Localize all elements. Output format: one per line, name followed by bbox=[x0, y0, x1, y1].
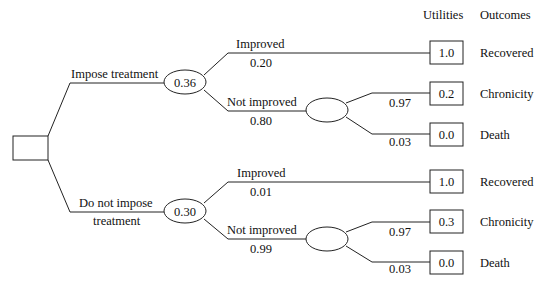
chance-node bbox=[306, 227, 348, 251]
outcome-label: Recovered bbox=[480, 175, 534, 189]
improved-line bbox=[204, 182, 430, 203]
death-probability: 0.03 bbox=[389, 135, 411, 149]
outcome-label: Death bbox=[480, 256, 511, 270]
chance-node-value: 0.30 bbox=[174, 205, 196, 219]
improved-label: Improved bbox=[236, 37, 285, 51]
improved-probability: 0.20 bbox=[250, 56, 272, 70]
utility-value: 1.0 bbox=[439, 175, 455, 189]
utility-value: 1.0 bbox=[439, 46, 455, 60]
not-improved-probability: 0.80 bbox=[250, 114, 272, 128]
utility-value: 0.3 bbox=[439, 215, 455, 229]
improved-label: Improved bbox=[237, 166, 286, 180]
not-improved-probability: 0.99 bbox=[250, 242, 272, 256]
branch-label: Impose treatment bbox=[71, 67, 159, 81]
death-line bbox=[346, 117, 430, 134]
improved-probability: 0.01 bbox=[250, 185, 272, 199]
not-improved-label: Not improved bbox=[227, 95, 298, 109]
not-improved-label: Not improved bbox=[227, 223, 298, 237]
chance-node-value: 0.36 bbox=[174, 76, 196, 90]
outcome-label: Chronicity bbox=[480, 87, 534, 101]
branch-label-line1: Do not impose bbox=[79, 196, 153, 210]
chronicity-probability: 0.97 bbox=[389, 225, 411, 239]
outcome-label: Chronicity bbox=[480, 215, 534, 229]
decision-tree-diagram: Utilities Outcomes Impose treatment 0.36… bbox=[0, 0, 548, 285]
utility-value: 0.0 bbox=[439, 256, 455, 270]
outcome-label: Death bbox=[480, 128, 511, 142]
decision-node bbox=[13, 136, 48, 160]
death-line bbox=[346, 246, 430, 262]
chronicity-probability: 0.97 bbox=[389, 96, 411, 110]
branch-do-not-impose-treatment: Do not impose treatment 0.30 Improved 0.… bbox=[48, 160, 534, 276]
utility-value: 0.0 bbox=[439, 128, 455, 142]
branch-label-line2: treatment bbox=[93, 214, 141, 228]
outcome-label: Recovered bbox=[480, 46, 534, 60]
chronicity-line bbox=[346, 93, 430, 103]
chance-node bbox=[306, 98, 348, 122]
branch-impose-treatment: Impose treatment 0.36 Improved 0.20 1.0 … bbox=[48, 37, 534, 149]
outcomes-header: Outcomes bbox=[480, 8, 531, 22]
branch-line bbox=[48, 83, 164, 136]
chronicity-line bbox=[346, 222, 430, 232]
improved-line bbox=[204, 53, 430, 75]
utility-value: 0.2 bbox=[439, 87, 455, 101]
utilities-header: Utilities bbox=[423, 8, 463, 22]
death-probability: 0.03 bbox=[389, 262, 411, 276]
